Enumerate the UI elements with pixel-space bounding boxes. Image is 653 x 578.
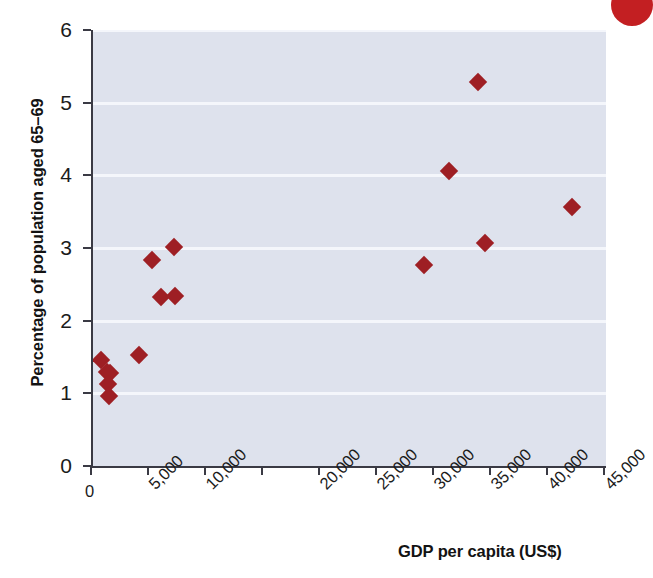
x-tick-mark [546,466,548,475]
x-tick-mark [489,466,491,475]
plot-area [91,30,606,468]
x-tick-label: 45,000 [601,445,649,493]
y-tick-label: 6 [28,17,74,43]
gridline-y-6 [93,30,606,32]
y-tick-mark [83,247,91,249]
data-point [414,256,432,274]
y-tick-label: 0 [28,453,74,479]
y-tick-label-text: 6 [28,17,72,43]
gridline-y-5 [93,102,606,105]
data-point [165,237,183,255]
data-point [469,72,487,90]
x-tick-mark [147,466,149,475]
data-point [129,346,147,364]
x-tick-mark [90,466,92,475]
corner-badge-icon [611,0,653,26]
x-tick-mark [432,466,434,475]
data-point [439,162,457,180]
x-tick-mark [375,466,377,475]
data-point [166,287,184,305]
x-tick-mark [204,466,206,475]
data-point [143,250,161,268]
data-point [563,198,581,216]
gridline-y-2 [93,320,606,323]
x-tick-mark [261,466,263,475]
data-point [100,386,118,404]
y-tick-mark [83,320,91,322]
gridline-y-1 [93,392,606,395]
gridline-y-4 [93,174,606,177]
y-tick-mark [83,29,91,31]
x-axis-title: GDP per capita (US$) [398,542,562,561]
x-tick-mark [603,466,605,475]
y-tick-mark [83,102,91,104]
y-tick-mark [83,174,91,176]
x-tick-mark [318,466,320,475]
y-tick-mark [83,392,91,394]
y-axis-title: Percentage of population aged 65–69 [28,78,47,408]
y-tick-label-text: 0 [28,453,72,479]
x-tick-label: 0 [85,482,94,501]
